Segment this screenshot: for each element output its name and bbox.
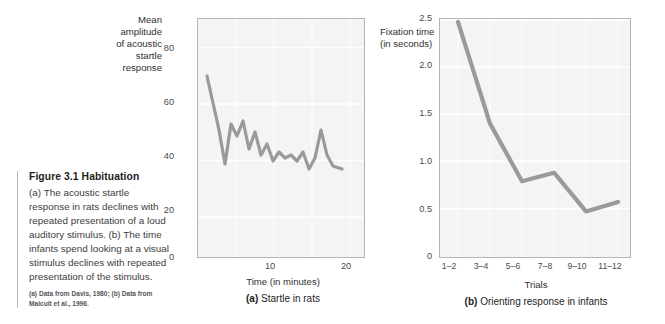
panel-b-y-tick-0: 0 — [402, 252, 432, 261]
panel-b-y-tick-0-5: 0.5 — [402, 205, 432, 214]
panel-a-y-tick-40: 40 — [152, 152, 174, 161]
chart-panel-a: Mean amplitude of acoustic startle respo… — [0, 0, 380, 324]
panel-b-y-tick-1-0: 1.0 — [402, 157, 432, 166]
panel-a-letter: (a) — [246, 293, 258, 304]
panel-b-gridlines-vertical — [458, 19, 618, 257]
panel-a-y-tick-80: 80 — [152, 44, 174, 53]
chart-panel-b: Fixation time (in seconds) 2.5 2.0 1.5 1… — [380, 0, 665, 324]
panel-b-letter: (b) — [465, 296, 478, 307]
panel-b-gridlines — [440, 20, 630, 209]
panel-a-x-tick-20: 20 — [334, 262, 358, 271]
panel-a-plot-area — [197, 18, 365, 258]
panel-a-y-axis-label: Mean amplitude of acoustic startle respo… — [88, 14, 162, 74]
panel-b-y-tick-2-5: 2.5 — [402, 14, 432, 23]
panel-a-caption-text: Startle in rats — [261, 293, 320, 304]
panel-b-caption-text: Orienting response in infants — [480, 296, 607, 307]
panel-b-plot-area — [439, 18, 631, 258]
panel-a-x-tick-10: 10 — [258, 262, 282, 271]
panel-b-x-axis-label: Trials — [472, 279, 600, 291]
panel-b-x-tick-6: 11–12 — [589, 262, 631, 271]
panel-a-y-tick-20: 20 — [152, 206, 174, 215]
panel-a-y-tick-0: 0 — [152, 253, 174, 262]
panel-a-gridlines — [198, 48, 364, 218]
panel-a-caption: (a) Startle in rats — [213, 293, 353, 304]
panel-a-y-tick-60: 60 — [152, 98, 174, 107]
panel-b-caption: (b) Orienting response in infants — [420, 296, 652, 307]
panel-a-x-axis-label: Time (in minutes) — [213, 276, 353, 288]
panel-b-y-tick-2-0: 2.0 — [402, 61, 432, 70]
panel-b-data-line — [458, 22, 618, 212]
panel-b-y-tick-1-5: 1.5 — [402, 109, 432, 118]
